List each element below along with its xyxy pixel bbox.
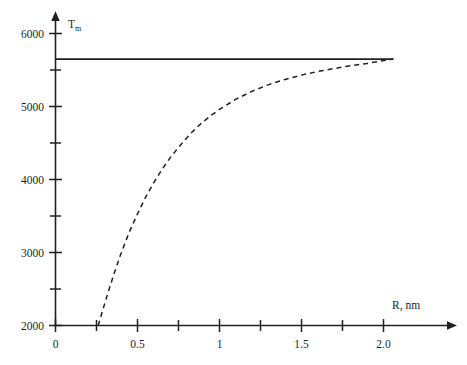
melting-temperature-chart: 6000 5000 4000 3000 2000 0 0.5 1 1.5 xyxy=(0,0,467,365)
y-ticklabel-6000: 6000 xyxy=(21,28,44,40)
x-ticklabel-0.5: 0.5 xyxy=(130,338,145,350)
axis-titles: T m R, nm xyxy=(68,18,420,312)
y-ticklabel-2000: 2000 xyxy=(21,320,44,332)
y-ticklabel-5000: 5000 xyxy=(21,101,44,113)
y-axis-ticklabels: 6000 5000 4000 3000 2000 xyxy=(21,28,44,332)
chart-figure: 6000 5000 4000 3000 2000 0 0.5 1 1.5 xyxy=(0,0,467,365)
y-axis-title-subscript: m xyxy=(75,24,82,33)
y-ticklabel-4000: 4000 xyxy=(21,174,44,186)
y-ticklabel-3000: 3000 xyxy=(21,247,44,259)
x-ticklabel-2.0: 2.0 xyxy=(376,338,391,350)
x-axis-title: R, nm xyxy=(392,299,420,312)
x-axis-ticklabels: 0 0.5 1 1.5 2.0 xyxy=(53,338,391,350)
x-axis-arrow-icon xyxy=(447,321,457,329)
x-ticklabel-1.5: 1.5 xyxy=(294,338,309,350)
y-axis-title: T xyxy=(68,18,75,30)
series-size-dependent-curve xyxy=(98,59,393,325)
x-ticklabel-0: 0 xyxy=(53,338,59,350)
x-ticklabel-1: 1 xyxy=(217,338,223,350)
data-series-group xyxy=(56,59,394,325)
y-axis-arrow-icon xyxy=(51,11,59,21)
